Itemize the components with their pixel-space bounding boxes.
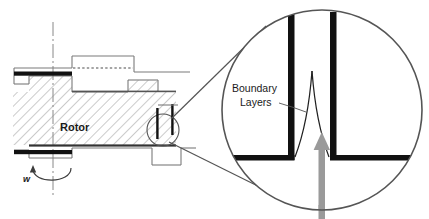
inset-wall-left bbox=[288, 12, 295, 160]
lower-disk bbox=[14, 150, 72, 154]
upper-disk bbox=[14, 72, 72, 76]
flow-arrow-shaft bbox=[319, 143, 326, 215]
flow-arrow-tail bbox=[319, 205, 326, 219]
rotor-step-hatch bbox=[128, 80, 158, 92]
rotor-left-step-hatch bbox=[29, 76, 72, 92]
omega-label: w bbox=[23, 174, 31, 184]
figure-root: Rotor w bbox=[0, 0, 429, 219]
magnified-inset: Boundary Layers bbox=[222, 10, 422, 219]
inset-base-left bbox=[230, 155, 295, 161]
rotation-arrowhead bbox=[30, 165, 36, 173]
boundary-layers-label-line2: Layers bbox=[240, 96, 272, 108]
boundary-layers-label-line1: Boundary bbox=[232, 82, 278, 94]
inset-base-right bbox=[330, 155, 416, 161]
diagram-svg: Rotor w bbox=[0, 0, 429, 219]
rotor-top-face-line bbox=[72, 91, 176, 93]
rotor-cross-section: Rotor w bbox=[13, 22, 196, 198]
rotation-arc bbox=[33, 168, 71, 180]
rotor-bottom-face-line bbox=[29, 144, 176, 146]
detail-wall-left bbox=[156, 108, 158, 139]
rotor-label: Rotor bbox=[60, 121, 90, 133]
rotation-symbol: w bbox=[23, 165, 71, 184]
detail-wall-right bbox=[171, 104, 173, 135]
inset-wall-right bbox=[330, 12, 337, 160]
